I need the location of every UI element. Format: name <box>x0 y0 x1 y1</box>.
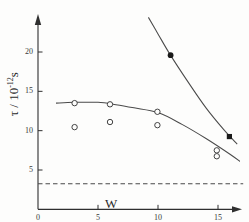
plot-canvas <box>0 0 249 222</box>
y-tick-label: 20 <box>17 47 33 56</box>
data-point-open-circle <box>155 122 160 127</box>
chart-figure: 5101520051015 τ / 10-12s W <box>0 0 249 222</box>
data-point-open-circle <box>214 154 219 159</box>
x-axis-arrowhead <box>232 206 242 212</box>
x-tick-label: 5 <box>90 213 106 222</box>
y-axis-label-exponent: -12 <box>6 77 15 88</box>
y-axis-label-unit: s <box>6 72 21 77</box>
data-point-open-circle <box>107 119 112 124</box>
y-axis-label-sep: / 10 <box>6 88 21 111</box>
data-point-open-circle <box>72 124 77 129</box>
data-point-open-circle <box>107 102 112 107</box>
x-tick-label: 15 <box>210 213 226 222</box>
y-axis-label-tau: τ <box>6 111 21 116</box>
x-tick-label: 0 <box>30 213 46 222</box>
data-points-group <box>72 52 232 159</box>
x-tick-label: 10 <box>150 213 166 222</box>
x-axis-label: W <box>105 196 117 212</box>
data-point-filled-square <box>227 134 232 139</box>
axes-group <box>35 14 242 213</box>
curves-group <box>56 17 242 163</box>
lower-flat-curve <box>56 102 242 163</box>
data-point-filled-circle <box>168 52 174 58</box>
data-point-open-circle <box>155 109 160 114</box>
y-tick-label: 5 <box>17 165 33 174</box>
data-point-open-circle <box>214 148 219 153</box>
upper-steep-curve <box>148 17 237 144</box>
y-axis-label: τ / 10-12s <box>6 56 22 132</box>
y-axis-arrowhead <box>35 14 41 25</box>
data-point-open-circle <box>72 100 77 105</box>
